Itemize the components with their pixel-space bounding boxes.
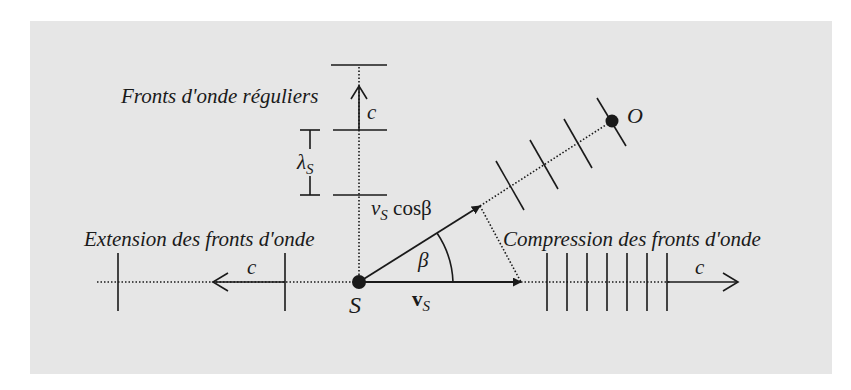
compression-fronts	[547, 253, 667, 311]
velocity-label: vS	[412, 287, 430, 312]
source-point	[352, 275, 366, 289]
c-up-label: c	[367, 100, 376, 125]
extension-label: Extension des fronts d'onde	[84, 227, 315, 252]
doppler-diagram: Fronts d'onde réguliers Extension des fr…	[0, 0, 851, 390]
beta-angle-arc	[437, 233, 453, 282]
observer-point	[606, 115, 619, 128]
velocity-sub: S	[423, 298, 431, 314]
velocity-v: v	[412, 287, 423, 311]
vs-cos-sub: S	[380, 207, 388, 223]
oblique-fronts	[496, 98, 626, 210]
cos-beta: cosβ	[388, 196, 432, 220]
vs-cos-beta-label: vS cosβ	[371, 196, 432, 221]
lambda-symbol: λ	[297, 150, 306, 174]
c-left-label: c	[247, 255, 256, 280]
wavelength-label: λS	[297, 150, 314, 175]
beta-label: β	[418, 248, 428, 273]
line-of-sight	[480, 121, 612, 206]
regular-fronts-label: Fronts d'onde réguliers	[121, 84, 318, 109]
diagram-drawing	[0, 0, 851, 390]
compression-label: Compression des fronts d'onde	[503, 227, 761, 252]
source-label: S	[349, 292, 361, 319]
c-right-label: c	[695, 255, 704, 280]
vs-cos-v: v	[371, 196, 380, 220]
lambda-subscript: S	[306, 161, 314, 177]
observer-label: O	[627, 103, 643, 129]
